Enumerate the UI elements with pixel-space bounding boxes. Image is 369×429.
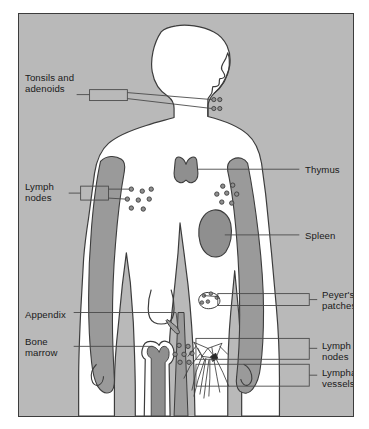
label-tonsils-adenoids: Tonsils and adenoids bbox=[25, 72, 74, 95]
label-bone-marrow: Bone marrow bbox=[25, 336, 58, 359]
figure-panel: Tonsils and adenoids Lymph nodes Appendi… bbox=[18, 13, 354, 417]
label-lymphatic-vessels: Lymphatic vessels bbox=[322, 367, 354, 390]
label-thymus: Thymus bbox=[305, 164, 340, 175]
label-spleen: Spleen bbox=[305, 230, 335, 241]
label-appendix: Appendix bbox=[25, 309, 66, 320]
label-lymph-nodes-left: Lymph nodes bbox=[25, 181, 54, 204]
spleen-organ bbox=[199, 210, 232, 257]
lymphatic-system-figure: Tonsils and adenoids Lymph nodes Appendi… bbox=[0, 0, 369, 429]
tonsils-adenoids-marker bbox=[212, 97, 222, 110]
label-peyers-patches: Peyer's patches bbox=[322, 289, 354, 312]
bone-marrow-organ bbox=[142, 341, 174, 416]
label-lymph-nodes-right: Lymph nodes bbox=[322, 340, 351, 363]
